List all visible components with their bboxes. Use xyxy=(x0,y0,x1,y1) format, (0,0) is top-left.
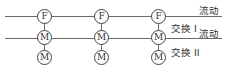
node-m: M xyxy=(37,50,52,65)
label-flow-top: 流动 xyxy=(199,3,219,17)
node-f: F xyxy=(94,9,109,24)
node-m: M xyxy=(37,30,52,45)
node-m: M xyxy=(151,30,166,45)
node-f: F xyxy=(37,9,52,24)
label-exchange-2: 交换 II xyxy=(171,45,200,59)
node-m: M xyxy=(151,50,166,65)
node-m: M xyxy=(94,50,109,65)
label-flow-middle: 流动 xyxy=(199,26,219,40)
node-m: M xyxy=(94,30,109,45)
node-f: F xyxy=(151,9,166,24)
label-exchange-1: 交换 I xyxy=(171,21,197,35)
